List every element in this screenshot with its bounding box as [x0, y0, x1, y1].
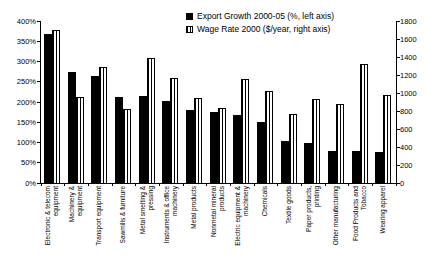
left-axis-tick-label: 50% [0, 158, 36, 167]
left-axis-tick-label: 200% [0, 98, 36, 107]
category-label: Wearing apparel [379, 186, 387, 252]
left-axis-tickmark [37, 122, 41, 123]
x-axis-tickmark [112, 183, 113, 186]
export-growth-bar [304, 143, 312, 184]
plot-area [40, 21, 397, 184]
left-axis-tick-label: 400% [0, 17, 36, 26]
category-label: Metal products [190, 186, 198, 252]
bar-chart: Export Growth 2000-05 (%, left axis)Wage… [0, 0, 430, 274]
right-axis-tick-label: 400 [400, 143, 413, 152]
category-label: Electric equipment & machinery [234, 186, 249, 252]
x-axis-tickmark [159, 183, 160, 186]
right-axis-tick-label: 1200 [400, 71, 417, 80]
x-axis-tickmark [135, 183, 136, 186]
category-label: Chemicals [261, 186, 269, 252]
wage-rate-bar [194, 98, 202, 184]
solid-square-icon [186, 13, 193, 20]
left-axis-tick-label: 300% [0, 57, 36, 66]
right-axis-tick-label: 1600 [400, 35, 417, 44]
category-label: Paper products, printing [305, 186, 320, 252]
x-axis-tickmark [230, 183, 231, 186]
export-growth-bar [233, 115, 241, 183]
wage-rate-bar [147, 58, 155, 183]
x-axis-tickmark [396, 183, 397, 186]
export-growth-bar [162, 101, 170, 183]
export-growth-bar [44, 34, 52, 183]
legend-label: Wage Rate 2000 ($/year, right axis) [197, 24, 330, 34]
wage-rate-bar [336, 104, 344, 183]
export-growth-bar [328, 151, 336, 183]
x-axis-tickmark [325, 183, 326, 186]
x-axis-tickmark [183, 183, 184, 186]
wage-rate-bar [76, 97, 84, 183]
category-label: Textile goods [285, 186, 293, 252]
x-axis-tickmark [348, 183, 349, 186]
export-growth-bar [210, 112, 218, 183]
right-axis-tick-label: 1000 [400, 89, 417, 98]
wage-rate-bar [170, 78, 178, 183]
export-growth-bar [91, 76, 99, 183]
export-growth-bar [68, 72, 76, 183]
category-label: Transport equipment [95, 186, 103, 252]
export-growth-bar [186, 110, 194, 183]
right-axis-tick-label: 200 [400, 161, 413, 170]
x-axis-tickmark [41, 183, 42, 186]
wage-rate-bar [265, 91, 273, 183]
category-label: Sawmills & furniture [119, 186, 127, 252]
left-axis-tickmark [37, 142, 41, 143]
export-growth-bar [139, 96, 147, 183]
right-axis-tick-label: 1400 [400, 53, 417, 62]
wage-rate-bar [52, 30, 60, 183]
x-axis-tickmark [277, 183, 278, 186]
wage-rate-bar [312, 99, 320, 183]
export-growth-bar [375, 152, 383, 183]
left-axis-tick-label: 250% [0, 77, 36, 86]
export-growth-bar [352, 151, 360, 183]
wage-rate-bar [383, 95, 391, 183]
category-label: Food Products and Tobacco [352, 186, 367, 252]
export-growth-bar [115, 97, 123, 183]
category-label: Other manufacturing [332, 186, 340, 252]
legend-item: Export Growth 2000-05 (%, left axis) [186, 11, 334, 21]
export-growth-bar [281, 141, 289, 183]
left-axis-tick-label: 350% [0, 37, 36, 46]
right-axis-tick-label: 600 [400, 125, 413, 134]
left-axis-tickmark [37, 61, 41, 62]
x-axis-tickmark [372, 183, 373, 186]
legend: Export Growth 2000-05 (%, left axis)Wage… [186, 11, 334, 37]
left-axis-tickmark [37, 102, 41, 103]
category-label: Metal smelting & pressing [139, 186, 154, 252]
legend-label: Export Growth 2000-05 (%, left axis) [197, 11, 334, 21]
category-label: Electronic & telecom equipment [44, 186, 59, 252]
category-label: Nonmetal mineral products [210, 186, 225, 252]
legend-item: Wage Rate 2000 ($/year, right axis) [186, 24, 334, 34]
striped-square-icon [186, 26, 193, 33]
left-axis-tickmark [37, 81, 41, 82]
right-axis-tick-label: 0 [400, 179, 404, 188]
wage-rate-bar [241, 79, 249, 183]
x-axis-tickmark [88, 183, 89, 186]
wage-rate-bar [218, 108, 226, 183]
category-label: Machinery & equipment [68, 186, 83, 252]
wage-rate-bar [99, 67, 107, 183]
wage-rate-bar [123, 109, 131, 183]
x-axis-tickmark [301, 183, 302, 186]
left-axis-tickmark [37, 21, 41, 22]
right-axis-tick-label: 800 [400, 107, 413, 116]
wage-rate-bar [289, 114, 297, 183]
left-axis-tickmark [37, 162, 41, 163]
left-axis-tick-label: 0% [0, 179, 36, 188]
left-axis-tick-label: 100% [0, 138, 36, 147]
right-axis-tick-label: 1800 [400, 17, 417, 26]
wage-rate-bar [360, 64, 368, 183]
left-axis-tick-label: 150% [0, 118, 36, 127]
x-axis-tickmark [64, 183, 65, 186]
export-growth-bar [257, 122, 265, 183]
left-axis-tickmark [37, 41, 41, 42]
x-axis-tickmark [206, 183, 207, 186]
x-axis-tickmark [254, 183, 255, 186]
category-label: Instruments & office machinery [163, 186, 178, 252]
